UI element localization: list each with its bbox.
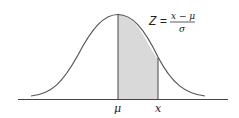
formula-denominator: σ (179, 24, 186, 34)
x-label: x (155, 102, 162, 115)
mean-label: μ (114, 102, 121, 115)
formula-lhs: Z = (148, 14, 167, 28)
normal-distribution-diagram: μ x Z = x − μ σ (0, 0, 239, 118)
formula-numerator: x − μ (171, 11, 195, 21)
